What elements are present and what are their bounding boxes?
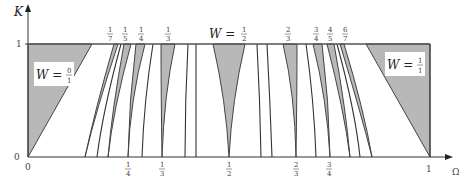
y-axis-label: K bbox=[13, 5, 24, 19]
svg-text:1: 1 bbox=[418, 57, 422, 65]
svg-text:5: 5 bbox=[328, 35, 332, 43]
y-axis-arrow-icon bbox=[25, 4, 31, 12]
svg-text:7: 7 bbox=[343, 35, 347, 43]
x-axis-arrow-icon bbox=[445, 154, 453, 160]
svg-text:3: 3 bbox=[286, 35, 290, 43]
svg-text:4: 4 bbox=[327, 170, 332, 178]
svg-text:3: 3 bbox=[294, 170, 298, 178]
tongue-1-7 bbox=[85, 44, 118, 157]
top-label-1-7: 1 7 bbox=[107, 26, 113, 43]
svg-text:4: 4 bbox=[126, 170, 131, 178]
svg-text:1: 1 bbox=[126, 161, 130, 169]
x-axis-label: Ω bbox=[452, 167, 459, 177]
svg-text:1: 1 bbox=[227, 161, 231, 169]
x-tick-label-2-3: 2 3 bbox=[293, 161, 299, 178]
top-label-2-3: 2 3 bbox=[285, 26, 291, 43]
x-tick-label-3-4: 3 4 bbox=[326, 161, 332, 178]
svg-text:5: 5 bbox=[123, 35, 127, 43]
svg-text:W =: W = bbox=[36, 68, 62, 82]
svg-text:1: 1 bbox=[166, 26, 170, 34]
svg-text:1: 1 bbox=[108, 26, 112, 34]
tongue-2-3 bbox=[283, 44, 297, 157]
region-label-1-2: W = 1 2 bbox=[209, 26, 247, 43]
x-tick-label-1-4: 1 4 bbox=[125, 161, 131, 178]
x-tick-label-0: 0 bbox=[25, 162, 31, 172]
svg-text:1: 1 bbox=[67, 77, 71, 85]
region-label-0-1: W = 0 1 bbox=[34, 62, 74, 86]
svg-text:W =: W = bbox=[209, 27, 235, 41]
y-tick-label-0: 0 bbox=[14, 152, 20, 162]
svg-text:4: 4 bbox=[314, 35, 319, 43]
tongue-1-2 bbox=[213, 44, 245, 157]
top-label-1-5: 1 5 bbox=[122, 26, 128, 43]
svg-text:4: 4 bbox=[328, 26, 333, 34]
x-tick-label-1: 1 bbox=[426, 164, 432, 174]
svg-text:4: 4 bbox=[139, 35, 144, 43]
top-label-4-5: 4 5 bbox=[327, 26, 333, 43]
x-tick-label-1-2: 1 2 bbox=[226, 161, 232, 178]
svg-text:1: 1 bbox=[418, 67, 422, 75]
svg-text:3: 3 bbox=[160, 170, 164, 178]
svg-text:3: 3 bbox=[314, 26, 318, 34]
svg-text:1: 1 bbox=[123, 26, 127, 34]
svg-text:7: 7 bbox=[108, 35, 112, 43]
top-label-1-4: 1 4 bbox=[138, 26, 144, 43]
svg-text:2: 2 bbox=[242, 35, 246, 43]
x-tick-label-1-3: 1 3 bbox=[159, 161, 165, 178]
svg-text:6: 6 bbox=[343, 26, 348, 34]
svg-text:1: 1 bbox=[242, 26, 246, 34]
svg-text:W =: W = bbox=[387, 58, 413, 72]
region-label-1-1: W = 1 1 bbox=[385, 52, 425, 76]
svg-text:3: 3 bbox=[166, 35, 170, 43]
tongue-1-3 bbox=[161, 44, 175, 157]
svg-text:2: 2 bbox=[286, 26, 290, 34]
arnold-tongue-diagram: K Ω 1 0 0 1 1 4 1 3 1 2 2 3 3 4 1 7 1 5 … bbox=[0, 0, 472, 186]
top-label-6-7: 6 7 bbox=[342, 26, 348, 43]
svg-text:1: 1 bbox=[160, 161, 164, 169]
tongue-0-1 bbox=[28, 44, 92, 157]
tongue-6-7 bbox=[340, 44, 372, 157]
svg-text:3: 3 bbox=[327, 161, 331, 169]
top-label-3-4: 3 4 bbox=[313, 26, 319, 43]
y-tick-label-1: 1 bbox=[16, 39, 22, 49]
svg-text:0: 0 bbox=[67, 67, 71, 75]
svg-text:1: 1 bbox=[139, 26, 143, 34]
top-label-1-3: 1 3 bbox=[165, 26, 171, 43]
svg-text:2: 2 bbox=[294, 161, 298, 169]
svg-text:2: 2 bbox=[227, 170, 231, 178]
